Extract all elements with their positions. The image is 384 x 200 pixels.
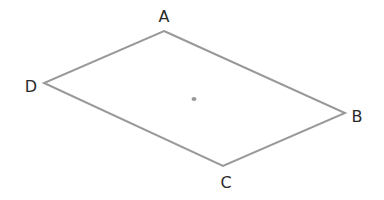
vertex-label-d: D (25, 77, 37, 96)
center-point (192, 97, 197, 101)
vertex-label-c: C (220, 173, 231, 192)
vertex-label-b: B (352, 107, 363, 126)
parallelogram-diagram: A B C D (0, 0, 384, 200)
vertex-label-a: A (159, 7, 170, 26)
